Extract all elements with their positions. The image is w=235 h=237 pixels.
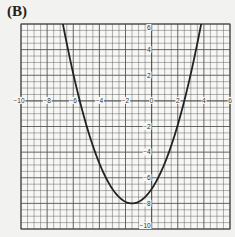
x-tick-label: −10: [13, 97, 24, 104]
y-tick-label: −8: [143, 200, 151, 207]
x-tick-label: −2: [122, 97, 130, 104]
x-tick-label: 4: [202, 97, 206, 104]
y-tick-label: −6: [143, 174, 151, 181]
x-tick-label: −8: [43, 97, 51, 104]
x-tick-label: −4: [96, 97, 104, 104]
y-tick-label: 2: [147, 72, 151, 79]
x-tick-label: 0: [150, 97, 154, 104]
y-tick-label: −4: [143, 148, 151, 155]
parabola-chart: −10−8−6−4−20246642−2−4−6−8−10: [0, 0, 235, 237]
x-tick-label: 6: [228, 97, 232, 104]
x-tick-label: 2: [176, 97, 180, 104]
y-tick-label: −10: [140, 222, 151, 229]
y-tick-label: −2: [143, 123, 151, 130]
y-tick-label: 4: [147, 46, 151, 53]
x-tick-label: −6: [70, 97, 78, 104]
y-tick-label: 6: [147, 24, 151, 31]
